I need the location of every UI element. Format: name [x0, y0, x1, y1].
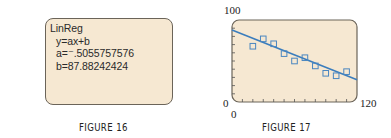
y-min-label: 0: [223, 97, 229, 109]
x-max-label: 120: [360, 97, 377, 109]
plot-frame: [232, 20, 357, 102]
y-max-label: 100: [224, 4, 241, 16]
x-min-label: 0: [231, 108, 237, 120]
scatter-plot: [0, 0, 391, 138]
figure-17-caption: FIGURE 17: [262, 121, 311, 134]
